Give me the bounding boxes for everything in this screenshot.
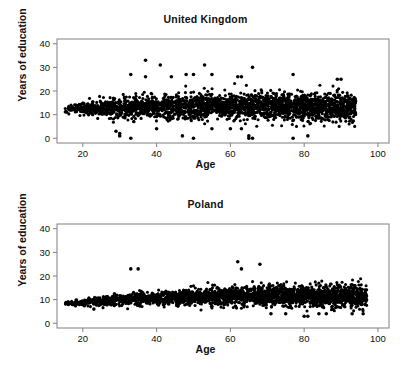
y-axis-tick-label: 20 bbox=[39, 271, 50, 282]
y-axis-tick-label: 10 bbox=[39, 294, 50, 305]
x-axis-label-united-kingdom: Age bbox=[0, 158, 411, 170]
data-point-cloud bbox=[64, 260, 369, 318]
plot-frame bbox=[57, 224, 389, 328]
chart-panel-united-kingdom: United Kingdom Years of education 204060… bbox=[0, 0, 411, 186]
y-axis-tick-label: 0 bbox=[45, 133, 50, 144]
y-axis-tick-label: 40 bbox=[39, 223, 50, 234]
data-point-cloud bbox=[64, 58, 358, 140]
y-axis-tick-label: 30 bbox=[39, 62, 50, 73]
y-axis-tick-label: 20 bbox=[39, 86, 50, 97]
y-axis-tick-label: 30 bbox=[39, 247, 50, 258]
y-axis-tick-label: 0 bbox=[45, 318, 50, 329]
y-axis-tick-label: 10 bbox=[39, 109, 50, 120]
chart-panel-poland: Poland Years of education 20406080100010… bbox=[0, 185, 411, 371]
x-axis-label-poland: Age bbox=[0, 343, 411, 355]
y-axis-tick-label: 40 bbox=[39, 38, 50, 49]
